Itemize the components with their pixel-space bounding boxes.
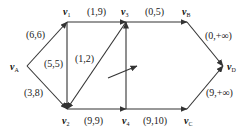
free-arrow: [108, 66, 137, 78]
edge-label-vA-v2: (3,8): [24, 87, 43, 99]
edge-label-v3-vB: (0,5): [145, 6, 164, 18]
node-label-v4: v4: [122, 115, 129, 127]
node-label-vB: vB: [182, 6, 190, 18]
flow-network-diagram: (6,6)(3,8)(1,9)(5,5)(1,2)(9,9)(0,5)(9,10…: [0, 0, 249, 132]
node-label-v3: v3: [121, 6, 128, 18]
node-label-vD: vD: [227, 61, 236, 73]
edge-label-vB-vD: (0,+∞): [205, 30, 232, 42]
edge-label-v1-v3: (1,9): [87, 6, 106, 18]
node-label-v2: v2: [62, 115, 69, 127]
edge-v3-v2-arrow: [67, 22, 126, 109]
edge-vB-vD-arrow: [187, 22, 223, 66]
node-label-vA: vA: [10, 61, 19, 73]
edge-label-v4-vC: (9,10): [143, 115, 167, 127]
edge-label-v3-v2: (1,2): [75, 53, 94, 65]
edge-label-v1-v2: (5,5): [44, 58, 63, 70]
edge-label-vA-v1: (6,6): [26, 29, 45, 41]
edge-label-vC-vD: (9,+∞): [206, 87, 233, 99]
edge-label-v2-v4: (9,9): [84, 115, 103, 127]
node-label-vC: vC: [184, 115, 192, 127]
node-label-v1: v1: [63, 6, 70, 18]
